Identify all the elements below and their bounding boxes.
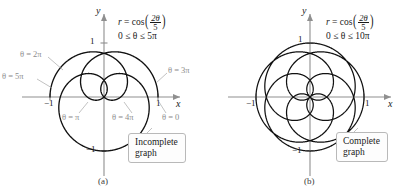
y-axis-label: y (302, 6, 306, 17)
x-axis-label: x (176, 99, 180, 110)
y-tick-label-pos1: 1 (90, 37, 95, 46)
y-axis-arrow (307, 14, 313, 21)
panel-complete-graph: y x −1 1 1 −1 r = cos(2θ5) 0 ≤ θ ≤ 10π C… (206, 0, 411, 193)
leader-theta-5pi (37, 79, 52, 88)
equation-a-fraction: 2θ5 (150, 14, 160, 32)
panel-b-plot (206, 0, 411, 193)
equation-b-fn: cos (340, 17, 353, 27)
panel-a-sublabel: (a) (98, 176, 108, 186)
x-tick-label-pos1: 1 (365, 99, 370, 108)
y-tick-label-neg1: −1 (86, 145, 96, 154)
callout-complete-graph: Complete graph (336, 132, 388, 162)
theta-label-pi: θ = π (62, 113, 79, 122)
y-tick-label-neg1: −1 (292, 146, 302, 155)
theta-label-3pi: θ = 3π (168, 66, 190, 75)
callout-b-line1: Complete (343, 136, 380, 147)
theta-label-2pi: θ = 2π (20, 50, 42, 59)
panel-incomplete-graph: y x −1 1 1 −1 r = cos(2θ5) 0 ≤ θ ≤ 5π θ … (0, 0, 205, 193)
panel-b-sublabel: (b) (304, 176, 315, 186)
panel-a-plot (0, 0, 205, 193)
theta-label-0: θ = 0 (162, 113, 179, 122)
callout-b-line2: graph (343, 147, 380, 158)
leader-theta-2pi (48, 57, 63, 70)
equation-b: r = cos(2θ5) (326, 14, 374, 32)
polar-graph-figure: y x −1 1 1 −1 r = cos(2θ5) 0 ≤ θ ≤ 5π θ … (0, 0, 411, 193)
equation-a-lhs: r (118, 17, 122, 27)
callout-a-line1: Incomplete (135, 137, 178, 148)
y-tick-label-pos1: 1 (298, 35, 303, 44)
equation-a-fn: cos (132, 17, 145, 27)
leader-theta-3pi (156, 73, 167, 83)
x-axis-label: x (388, 99, 392, 110)
equation-a: r = cos(2θ5) (118, 14, 166, 32)
equation-b-fraction: 2θ5 (358, 14, 368, 32)
leader-theta-pi (79, 102, 88, 113)
equation-a-equals: = (124, 17, 129, 27)
x-tick-label-neg1: −1 (246, 99, 256, 108)
x-tick-label-pos1: 1 (156, 99, 161, 108)
callout-a-line2: graph (135, 148, 178, 159)
domain-a: 0 ≤ θ ≤ 5π (118, 32, 157, 42)
equation-b-lhs: r (326, 17, 330, 27)
callout-incomplete-graph: Incomplete graph (128, 133, 186, 163)
domain-b: 0 ≤ θ ≤ 10π (326, 32, 370, 42)
theta-label-5pi: θ = 5π (2, 72, 24, 81)
y-axis-arrow (101, 14, 107, 21)
y-axis-label: y (96, 6, 100, 17)
theta-label-4pi: θ = 4π (112, 113, 134, 122)
x-tick-label-neg1: −1 (44, 99, 54, 108)
equation-b-equals: = (332, 17, 337, 27)
